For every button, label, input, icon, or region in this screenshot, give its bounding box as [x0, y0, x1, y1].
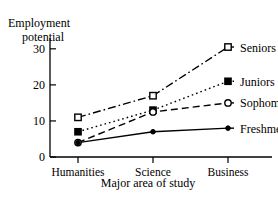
data-point-sophomores — [150, 109, 156, 115]
y-tick-label: 0 — [39, 150, 45, 164]
data-point-sophomores — [225, 100, 231, 106]
legend-label-seniors: Seniors — [240, 41, 276, 55]
data-point-juniors — [225, 78, 231, 84]
series-markers — [75, 44, 231, 146]
data-point-freshmen — [76, 140, 81, 145]
y-tick-label: 20 — [33, 78, 45, 92]
plot-area: 0102030 HumanitiesScienceBusiness Senior… — [0, 0, 278, 198]
legend-label-juniors: Juniors — [240, 75, 275, 89]
data-point-seniors — [150, 92, 156, 98]
legend-labels: SeniorsJuniorsSophomoresFreshmen — [240, 41, 278, 136]
data-point-juniors — [75, 129, 81, 135]
data-point-seniors — [225, 44, 231, 50]
data-point-freshmen — [226, 126, 231, 131]
legend-label-freshmen: Freshmen — [240, 122, 278, 136]
y-tick-label: 10 — [33, 114, 45, 128]
legend-label-sophomores: Sophomores — [240, 96, 278, 110]
y-axis-ticks: 0102030 — [33, 42, 56, 164]
data-point-seniors — [75, 114, 81, 120]
x-axis-title-text: Major area of study — [83, 176, 195, 191]
x-axis-ticks: HumanitiesScienceBusiness — [51, 157, 248, 178]
chart-container: Employment potential 0102030 HumanitiesS… — [0, 0, 278, 198]
x-axis-title: Major area of study — [0, 176, 278, 191]
data-point-freshmen — [151, 129, 156, 134]
y-tick-label: 30 — [33, 42, 45, 56]
